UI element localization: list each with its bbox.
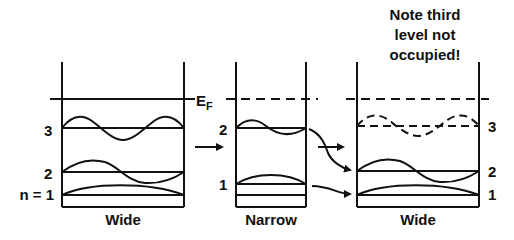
- wide-well-right: [346, 62, 489, 207]
- level-label-1: 1: [488, 186, 496, 203]
- note-line-2: level not: [395, 26, 456, 43]
- level-label-3: 3: [44, 122, 52, 139]
- well-label-wide-right: Wide: [400, 211, 436, 228]
- level-label-1: 1: [219, 176, 227, 193]
- well-label-wide-left: Wide: [105, 211, 141, 228]
- wide-well-left: [50, 62, 195, 207]
- level-label-2: 2: [44, 165, 52, 182]
- fermi-label: EF: [196, 92, 213, 112]
- note-line-1: Note third: [390, 6, 461, 23]
- level-label-1: n = 1: [19, 186, 54, 203]
- level-label-2: 2: [488, 163, 496, 180]
- quantum-well-diagram: Note third level not occupied! EF 3 2 n …: [0, 0, 514, 240]
- level-label-2: 2: [219, 121, 227, 138]
- note-line-3: occupied!: [390, 46, 461, 63]
- narrow-well: [226, 62, 318, 207]
- well-label-narrow: Narrow: [245, 211, 297, 228]
- level-label-3: 3: [488, 118, 496, 135]
